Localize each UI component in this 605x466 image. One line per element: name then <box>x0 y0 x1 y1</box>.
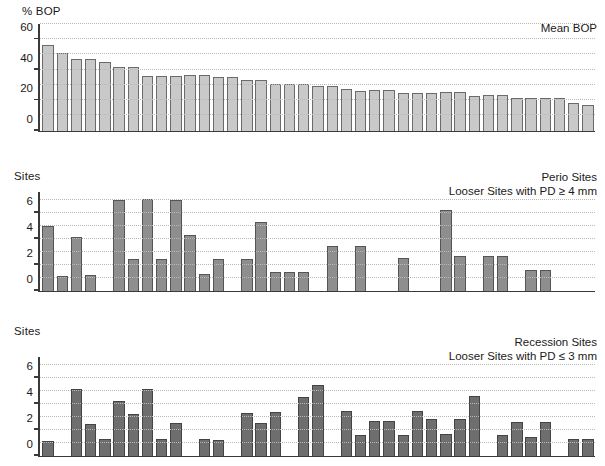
y-tick-label: 40 <box>20 53 33 65</box>
y-tick <box>34 99 39 101</box>
bar <box>341 411 352 455</box>
plot-area-mean-bop: 0204060 <box>38 24 595 132</box>
bar <box>355 91 366 131</box>
bar <box>270 272 281 290</box>
bar <box>42 45 53 130</box>
bar <box>341 89 352 131</box>
chart-panel-mean-bop: % BOP Mean BOP 0204060 <box>0 0 605 155</box>
bar <box>298 397 309 455</box>
gridline <box>40 403 595 404</box>
x-axis-line-0 <box>38 131 595 133</box>
gridline <box>40 429 595 430</box>
bar <box>284 272 295 290</box>
gridline <box>40 390 595 391</box>
chart-title-1-line1: Perio Sites <box>449 170 597 184</box>
y-tick <box>34 454 39 456</box>
y-tick <box>34 428 39 430</box>
bar <box>312 86 323 130</box>
bar <box>42 441 53 455</box>
y-axis-line-0 <box>38 24 40 132</box>
gridline <box>40 69 595 70</box>
y-tick-label: 2 <box>27 413 33 425</box>
gridline <box>40 84 595 85</box>
bar <box>469 96 480 131</box>
bar <box>540 270 551 291</box>
bar <box>327 246 338 291</box>
bar <box>497 256 508 291</box>
chart-panel-perio-sites: Sites Perio Sites Looser Sites with PD ≥… <box>0 158 605 310</box>
bar <box>57 276 68 290</box>
y-tick-label: 6 <box>27 361 33 373</box>
gridline <box>40 23 595 24</box>
bar <box>369 421 380 455</box>
bar <box>440 434 451 455</box>
bar <box>71 59 82 131</box>
gridline <box>40 416 595 417</box>
y-tick <box>34 68 39 70</box>
bar <box>85 59 96 131</box>
y-tick <box>34 376 39 378</box>
gridline <box>40 251 595 252</box>
bar <box>383 90 394 130</box>
gridline <box>40 264 595 265</box>
bar <box>540 422 551 456</box>
gridline <box>40 53 595 54</box>
gridline <box>40 99 595 100</box>
gridline <box>40 238 595 239</box>
axis-label-y-0: % BOP <box>22 5 61 17</box>
bar <box>369 90 380 130</box>
bar <box>454 256 465 291</box>
y-tick-label: 0 <box>27 439 33 451</box>
gridline <box>40 377 595 378</box>
bar <box>355 435 366 455</box>
gridline <box>40 225 595 226</box>
bar <box>142 389 153 456</box>
gridline <box>40 114 595 115</box>
bar <box>497 95 508 131</box>
bar <box>227 77 238 130</box>
y-tick <box>34 211 39 213</box>
y-tick <box>34 237 39 239</box>
chart-panel-recession-sites: Sites Recession Sites Looser Sites with … <box>0 313 605 466</box>
bar <box>454 419 465 455</box>
bar <box>383 421 394 455</box>
bar <box>284 84 295 130</box>
y-tick-label: 4 <box>27 222 33 234</box>
x-axis-line-2 <box>38 456 595 458</box>
bar <box>355 246 366 290</box>
y-tick-label: 6 <box>27 196 33 208</box>
bar <box>568 103 579 130</box>
bar <box>99 62 110 130</box>
bar <box>241 80 252 130</box>
bar <box>298 272 309 290</box>
bar <box>312 385 323 456</box>
bar <box>241 413 252 456</box>
y-tick-label: 60 <box>20 22 33 34</box>
bar <box>412 411 423 456</box>
bar <box>497 435 508 456</box>
y-tick <box>34 402 39 404</box>
bar <box>483 95 494 131</box>
bar <box>71 389 82 456</box>
y-tick-label: 4 <box>27 387 33 399</box>
gridline <box>40 277 595 278</box>
bar <box>270 412 281 455</box>
gridline <box>40 212 595 213</box>
y-tick <box>34 38 39 40</box>
chart-title-2-line1: Recession Sites <box>449 335 597 349</box>
bar <box>57 53 68 131</box>
bar <box>213 77 224 130</box>
bar <box>483 256 494 291</box>
bar <box>525 437 536 455</box>
bar <box>128 414 139 455</box>
bar <box>525 270 536 291</box>
bar <box>255 222 266 291</box>
y-tick <box>34 263 39 265</box>
gridline <box>40 38 595 39</box>
plot-area-perio-sites: 0246 <box>38 192 595 292</box>
bar <box>469 396 480 456</box>
bar <box>327 86 338 130</box>
y-tick-label: 0 <box>27 274 33 286</box>
bar <box>582 105 593 131</box>
bar <box>511 422 522 455</box>
